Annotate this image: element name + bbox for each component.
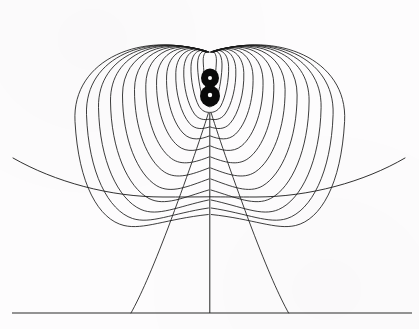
field-loop-right-10: [211, 46, 297, 189]
dipole-loops-right-group: [210, 45, 345, 227]
descending-line-left: [131, 113, 208, 313]
dipole-loops-left-group: [75, 45, 210, 227]
field-loop-right-11: [211, 46, 309, 202]
descending-line-right: [211, 113, 288, 313]
field-loop-left-14: [75, 45, 208, 227]
field-loop-left-12: [98, 45, 208, 212]
upper-pole-dot: [208, 76, 212, 80]
lower-pole-dot: [208, 93, 212, 97]
dipole-poles-group: [200, 69, 220, 107]
outer-sweep-line: [13, 158, 405, 197]
field-loop-right-12: [211, 45, 321, 212]
field-loop-right-14: [211, 45, 344, 227]
field-loop-left-11: [110, 46, 208, 202]
figure-root: [0, 0, 419, 329]
field-loop-left-10: [123, 46, 209, 189]
dipole-field-diagram: [0, 0, 419, 329]
